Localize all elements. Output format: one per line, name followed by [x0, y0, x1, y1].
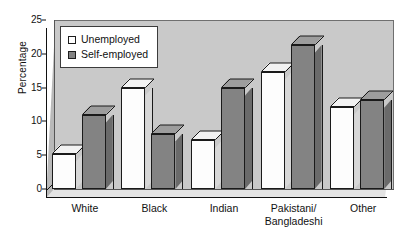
bar-front-face — [82, 115, 106, 189]
bar-front-face — [221, 88, 245, 189]
bar-side-face — [245, 88, 253, 189]
legend-swatch-white — [68, 36, 76, 44]
x-axis-label: Other — [350, 202, 376, 215]
bar-selfemployed — [221, 88, 245, 189]
bar-top-face — [330, 98, 362, 107]
bar-top-face — [291, 36, 323, 45]
bar-top-fill — [82, 106, 114, 115]
bar-front-face — [291, 45, 315, 189]
bar-chart: Percentage 0510152025 WhiteBlackIndianPa… — [0, 0, 403, 240]
y-tick-mark — [42, 20, 46, 21]
bar-unemployed — [261, 72, 285, 189]
legend: UnemployedSelf-employed — [60, 26, 158, 68]
legend-label: Unemployed — [81, 34, 140, 45]
y-tick-mark — [42, 189, 46, 190]
bar-unemployed — [191, 140, 215, 189]
bar-unemployed — [121, 88, 145, 189]
y-tick-label: 10 — [22, 116, 42, 126]
x-axis-label: Pakistani/ Bangladeshi — [265, 202, 323, 227]
bar-top-fill — [291, 36, 323, 45]
bar-top-face — [261, 63, 293, 72]
bar-top-fill — [52, 145, 84, 154]
bar-front-face — [52, 154, 76, 189]
bar-unemployed — [52, 154, 76, 189]
legend-label: Self-employed — [81, 49, 148, 60]
bar-front-face — [121, 88, 145, 189]
bar-top-face — [151, 125, 183, 134]
bar-top-face — [121, 79, 153, 88]
x-axis-label: White — [71, 202, 98, 215]
bar-top-fill — [191, 131, 223, 140]
bar-top-face — [82, 106, 114, 115]
x-axis-labels: WhiteBlackIndianPakistani/ BangladeshiOt… — [46, 202, 394, 238]
bar-selfemployed — [151, 134, 175, 189]
bar-selfemployed — [82, 115, 106, 189]
bar-front-face — [261, 72, 285, 189]
y-tick-mark — [42, 155, 46, 156]
bar-top-face — [221, 79, 253, 88]
bar-front-face — [330, 107, 354, 189]
bar-selfemployed — [291, 45, 315, 189]
bar-front-face — [191, 140, 215, 189]
bar-side-face — [384, 100, 392, 189]
y-tick-label: 20 — [22, 49, 42, 59]
bar-side-face — [175, 134, 183, 189]
bar-top-face — [360, 91, 392, 100]
bar-top-fill — [151, 125, 183, 134]
y-tick-label: 25 — [22, 15, 42, 25]
y-tick-label: 0 — [22, 184, 42, 194]
bar-top-fill — [121, 79, 153, 88]
bar-top-face — [52, 145, 84, 154]
bar-top-face — [191, 131, 223, 140]
bar-side-fill — [175, 134, 182, 189]
bar-side-fill — [384, 100, 391, 189]
legend-item: Self-employed — [68, 47, 148, 62]
bar-side-face — [315, 45, 323, 189]
bar-selfemployed — [360, 100, 384, 189]
bar-top-fill — [261, 63, 293, 72]
bar-front-face — [151, 134, 175, 189]
bar-side-face — [106, 115, 114, 189]
x-axis-label: Black — [142, 202, 168, 215]
y-tick-mark — [42, 121, 46, 122]
bar-unemployed — [330, 107, 354, 189]
bar-side-fill — [106, 115, 113, 189]
bar-top-fill — [330, 98, 362, 107]
legend-swatch-gray — [68, 51, 76, 59]
y-tick-mark — [42, 53, 46, 54]
y-tick-label: 15 — [22, 83, 42, 93]
y-tick-label: 5 — [22, 150, 42, 160]
bar-side-fill — [245, 88, 252, 189]
bar-top-fill — [360, 91, 392, 100]
y-tick-mark — [42, 87, 46, 88]
bar-side-fill — [315, 45, 322, 189]
legend-item: Unemployed — [68, 32, 148, 47]
bar-top-fill — [221, 79, 253, 88]
y-axis-ticks: 0510152025 — [20, 0, 42, 240]
x-axis-label: Indian — [210, 202, 239, 215]
bar-front-face — [360, 100, 384, 189]
